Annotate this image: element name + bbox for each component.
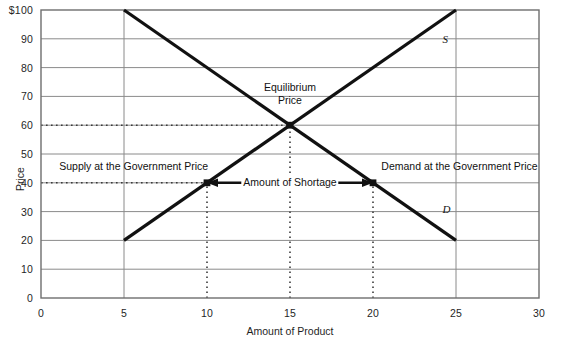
x-tick-5: 5 <box>121 307 127 319</box>
y-tick-90: 90 <box>21 33 33 45</box>
y-tick-100: $100 <box>9 4 33 16</box>
y-axis-title: Price <box>14 167 26 191</box>
amount-of-shortage-annotation: Amount of Shortage <box>241 176 338 189</box>
supply-demand-chart: 0102030405060708090$100 051015202530 Pri… <box>0 0 563 337</box>
y-tick-50: 50 <box>21 148 33 160</box>
equilibrium-price-line2: Price <box>264 94 316 107</box>
y-tick-10: 10 <box>21 263 33 275</box>
x-axis-title: Amount of Product <box>247 325 334 337</box>
x-tick-25: 25 <box>450 307 462 319</box>
x-tick-15: 15 <box>284 307 296 319</box>
x-tick-20: 20 <box>367 307 379 319</box>
y-tick-80: 80 <box>21 62 33 74</box>
demand-curve-label: D <box>442 203 450 215</box>
supply-curve-label: S <box>442 33 448 45</box>
y-tick-30: 30 <box>21 206 33 218</box>
equilibrium-price-line1: Equilibrium <box>264 81 316 94</box>
y-tick-20: 20 <box>21 234 33 246</box>
x-tick-10: 10 <box>201 307 213 319</box>
supply-at-government-price-annotation: Supply at the Government Price <box>59 160 208 173</box>
amount-of-shortage-text: Amount of Shortage <box>241 176 338 188</box>
x-tick-30: 30 <box>533 307 545 319</box>
x-tick-0: 0 <box>38 307 44 319</box>
demand-at-government-price-annotation: Demand at the Government Price <box>381 160 537 173</box>
y-tick-0: 0 <box>27 292 33 304</box>
y-tick-70: 70 <box>21 90 33 102</box>
y-tick-60: 60 <box>21 119 33 131</box>
equilibrium-price-annotation: Equilibrium Price <box>264 81 316 107</box>
